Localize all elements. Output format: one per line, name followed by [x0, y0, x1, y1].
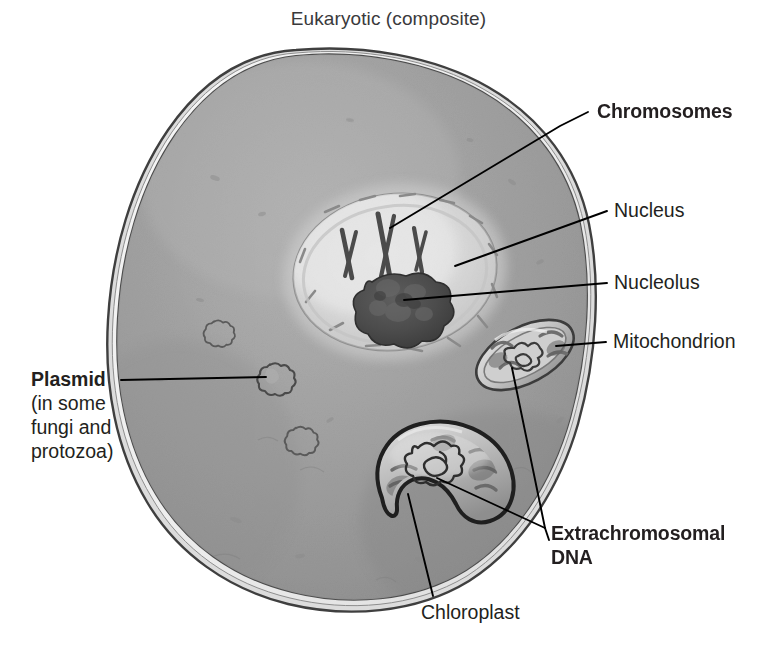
label-nucleolus: Nucleolus	[614, 271, 700, 294]
figure-title: Eukaryotic (composite)	[0, 8, 777, 30]
label-plasmid-head: Plasmid	[31, 367, 113, 391]
label-plasmid-sub1: (in some	[31, 391, 113, 415]
label-chloroplast: Chloroplast	[421, 601, 520, 624]
figure-canvas: Eukaryotic (composite) Chromosomes Nucle…	[0, 0, 777, 662]
label-extradna-line1: Extrachromosomal	[551, 521, 725, 545]
label-mitochondrion: Mitochondrion	[613, 330, 735, 353]
label-plasmid-sub3: protozoa)	[31, 439, 113, 463]
leader-extradna-stem	[545, 528, 549, 540]
label-plasmid: Plasmid (in some fungi and protozoa)	[31, 367, 113, 463]
label-extradna-line2: DNA	[551, 545, 725, 569]
label-extrachromosomal-dna: Extrachromosomal DNA	[551, 521, 725, 569]
label-nucleus: Nucleus	[614, 199, 684, 222]
label-chromosomes: Chromosomes	[597, 100, 732, 123]
label-plasmid-sub2: fungi and	[31, 415, 113, 439]
